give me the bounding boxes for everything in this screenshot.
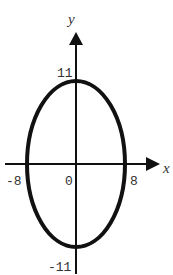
y-axis-label: y [66, 11, 75, 27]
y-tick-11: 11 [57, 66, 73, 81]
x-tick-neg8: -8 [6, 174, 22, 189]
x-tick-8: 8 [130, 174, 138, 189]
y-axis-arrow-icon [69, 32, 83, 45]
x-tick-0: 0 [65, 174, 73, 189]
y-tick-neg11: -11 [48, 260, 72, 275]
x-axis-arrow-icon [146, 157, 160, 171]
ellipse-chart: y x 11 -8 0 8 -11 [0, 0, 173, 275]
x-axis-label: x [162, 160, 170, 176]
